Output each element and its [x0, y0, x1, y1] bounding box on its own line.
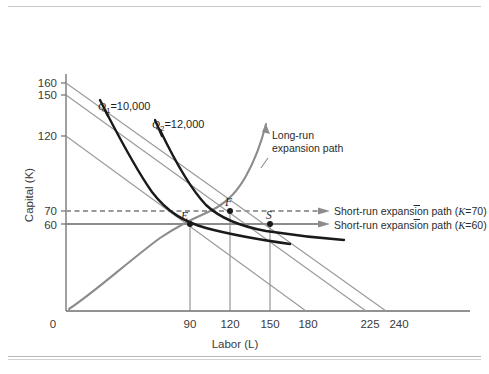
figure-container: E F S 160 150 120 70 60 0 90 120 150 180…	[0, 0, 489, 374]
q2-symbol: Q	[152, 118, 160, 130]
y-axis-ticks	[61, 83, 66, 224]
y-tick-label-70: 70	[44, 205, 57, 217]
short-run-k60-label: Short-run expansion path (K=60)	[334, 219, 487, 231]
short-run-k70-text: Short-run expansion path (	[334, 205, 459, 217]
short-run-k70-label: Short-run expansion path (K=70)	[334, 205, 487, 217]
x-tick-label-90: 90	[184, 318, 197, 330]
short-run-k60-text: Short-run expansion path (	[334, 219, 459, 231]
isoquant-isocost-chart: E F S 160 150 120 70 60 0 90 120 150 180…	[0, 0, 489, 374]
long-run-leader-line	[261, 158, 268, 168]
x-tick-label-150: 150	[260, 318, 279, 330]
point-label-e: E	[180, 210, 188, 222]
point-label-s: S	[266, 209, 272, 221]
q1-value: =10,000	[110, 100, 150, 112]
long-run-label-line2: expansion path	[272, 142, 343, 154]
x-tick-label-120: 120	[220, 318, 239, 330]
long-run-annotation: Long-run expansion path	[261, 129, 343, 168]
point-marker-f[interactable]	[227, 208, 233, 214]
short-run-path-k70	[66, 208, 330, 215]
x-tick-label-180: 180	[298, 318, 317, 330]
y-axis-title: Capital (K)	[23, 168, 35, 222]
y-tick-label-160: 160	[38, 77, 57, 89]
y-tick-label-60: 60	[44, 219, 57, 231]
isoquant-q1-label: Q1=10,000	[98, 100, 150, 115]
isocost-line-c2	[66, 95, 366, 311]
point-label-f: F	[224, 196, 233, 208]
x-tick-label-240: 240	[389, 318, 408, 330]
short-run-k60-tail: =60)	[465, 219, 486, 231]
arrow-head-k70-icon	[318, 208, 330, 215]
expansion-path-curve	[69, 124, 266, 309]
q2-value: =12,000	[164, 118, 204, 130]
y-tick-label-150: 150	[38, 89, 57, 101]
q1-symbol: Q	[98, 100, 106, 112]
short-run-k70-tail: =70)	[465, 205, 486, 217]
point-marker-s[interactable]	[267, 221, 273, 227]
x-tick-label-225: 225	[360, 318, 379, 330]
arrow-head-k60-icon	[318, 221, 330, 228]
long-run-expansion-path	[69, 124, 270, 309]
y-tick-label-120: 120	[38, 130, 57, 142]
isoquant-q2-label: Q2=12,000	[152, 118, 204, 133]
x-axis-title: Labor (L)	[212, 338, 259, 350]
x-tick-label-0: 0	[50, 318, 56, 330]
long-run-label-line1: Long-run	[272, 129, 314, 141]
